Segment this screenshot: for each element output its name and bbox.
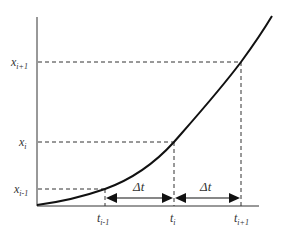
y-label-x-i: xi <box>18 135 27 151</box>
x-label-t-im1: ti-1 <box>97 211 109 227</box>
discretization-diagram: Δt Δt xi+1 xi xi-1 ti-1 ti ti+1 <box>0 0 283 233</box>
x-label-t-ip1: ti+1 <box>234 211 249 227</box>
x-label-t-i: ti <box>170 211 176 227</box>
interval-arrow-1 <box>106 193 173 203</box>
interval-arrow-2 <box>175 193 240 203</box>
y-label-x-ip1: xi+1 <box>10 55 28 71</box>
y-label-x-im1: xi-1 <box>13 182 28 198</box>
interval-label-1: Δt <box>132 179 145 194</box>
interval-label-2: Δt <box>199 179 212 194</box>
arrowhead-left-icon <box>175 193 186 203</box>
arrowhead-right-icon <box>162 193 173 203</box>
arrowhead-right-icon <box>229 193 240 203</box>
function-curve <box>37 16 272 205</box>
arrowhead-left-icon <box>106 193 117 203</box>
